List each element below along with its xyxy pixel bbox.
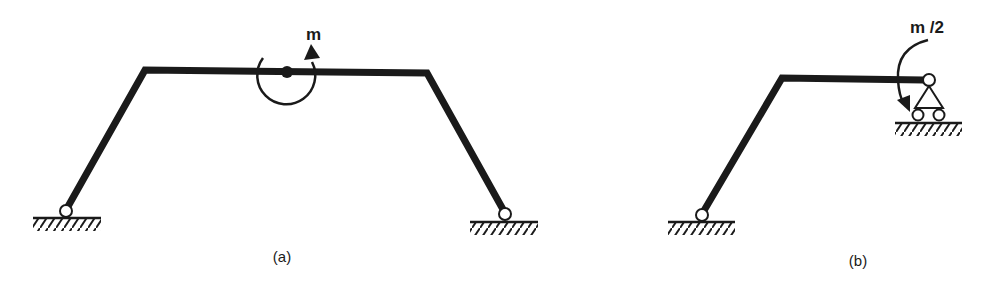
- center-hinge-icon: [281, 66, 293, 78]
- pin-support-right-a-icon: [470, 208, 538, 235]
- figure-a: m (a): [33, 25, 538, 265]
- moment-label-a: m: [306, 25, 321, 44]
- caption-a: (a): [273, 248, 291, 265]
- pin-support-left-a-icon: [33, 205, 101, 231]
- pin-support-b-icon: [668, 209, 735, 235]
- frame-b-members: [702, 78, 924, 214]
- moment-label-b: m /2: [910, 18, 944, 37]
- caption-b: (b): [849, 252, 867, 269]
- figure-b: m /2 (b): [668, 18, 962, 269]
- structural-diagram: m (a): [0, 0, 993, 284]
- frame-a-members: [66, 70, 505, 213]
